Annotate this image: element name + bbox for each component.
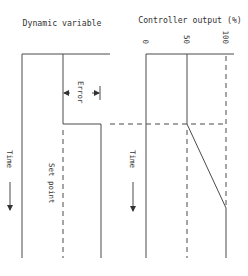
setpoint-label: Set point (47, 163, 56, 204)
left-time-label: Time (5, 150, 14, 169)
tick-0: 0 (141, 39, 150, 44)
error-label: Error (76, 81, 85, 104)
right-panel-title: Controller output (%) (138, 15, 242, 25)
left-panel: Dynamic variable Error Set point Time (5, 18, 110, 258)
tick-100: 100 (221, 30, 230, 44)
output-ramp (187, 124, 226, 208)
left-panel-title: Dynamic variable (23, 18, 102, 28)
control-diagram: Dynamic variable Error Set point Time (0, 0, 248, 276)
error-dimension: Error (64, 81, 100, 104)
right-time-label: Time (128, 150, 137, 169)
tick-50: 50 (182, 35, 191, 45)
right-panel: Controller output (%) 0 50 100 Time (128, 15, 242, 258)
